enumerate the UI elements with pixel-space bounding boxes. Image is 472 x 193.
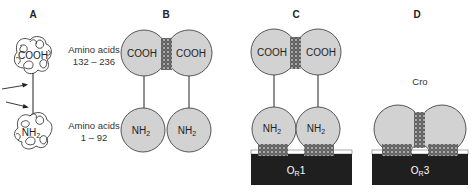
cooh-label-right-b: COOH bbox=[176, 48, 206, 59]
amino-acids-range-top: 132 – 236 bbox=[73, 56, 115, 67]
cro-dimer-interface bbox=[414, 112, 425, 148]
panel-letter-b: B bbox=[162, 9, 169, 20]
arrow-icon bbox=[2, 83, 28, 89]
dimer-interface-b bbox=[161, 38, 172, 70]
panel-c: C OR1 COOH COOH NH2 NH2 bbox=[251, 9, 352, 185]
panel-a: A COOH bbox=[2, 9, 120, 149]
cooh-label-a: COOH bbox=[18, 50, 48, 61]
panel-d: D Cro OR3 bbox=[372, 9, 468, 185]
panel-letter-d: D bbox=[413, 9, 420, 20]
dna-contact-left-c bbox=[258, 144, 288, 156]
dimer-interface-c bbox=[290, 37, 301, 69]
dna-contact-right-c bbox=[304, 144, 334, 156]
panel-b: B COOH COOH NH2 NH2 bbox=[121, 9, 212, 152]
dna-contact-right-d bbox=[428, 144, 458, 156]
arrow-icon bbox=[6, 102, 29, 109]
cro-label: Cro bbox=[412, 76, 427, 87]
dna-contact-left-d bbox=[382, 144, 412, 156]
panel-letter-c: C bbox=[292, 9, 299, 20]
cooh-label-left-c: COOH bbox=[257, 47, 287, 58]
cooh-label-left-b: COOH bbox=[127, 48, 157, 59]
amino-acids-label-top: Amino acids bbox=[68, 44, 120, 55]
cooh-label-right-c: COOH bbox=[306, 47, 336, 58]
lambda-repressor-diagram: A COOH bbox=[0, 0, 472, 193]
amino-acids-label-bottom: Amino acids bbox=[68, 120, 120, 131]
panel-letter-a: A bbox=[29, 9, 36, 20]
amino-acids-range-bottom: 1 – 92 bbox=[81, 132, 107, 143]
